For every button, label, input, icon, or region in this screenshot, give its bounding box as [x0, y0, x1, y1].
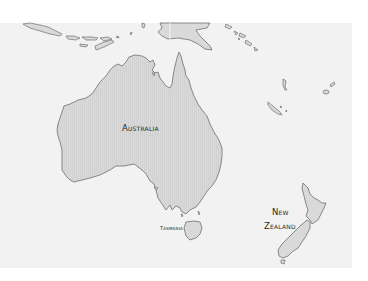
new-zealand-north-island: [302, 183, 326, 224]
stewart-island: [281, 260, 285, 264]
map-canvas: [0, 0, 368, 281]
label-new-zealand-line1: New: [272, 208, 289, 217]
australia-mainland: [57, 52, 222, 214]
label-australia: Australia: [122, 124, 159, 133]
solomon-islands: [225, 24, 258, 51]
label-tasmania: Tasmania: [160, 226, 183, 231]
indonesia-islands: [23, 23, 145, 50]
label-new-zealand-line2: Zealand: [264, 222, 296, 231]
tasmania: [184, 221, 202, 240]
pacific-islands: [268, 79, 335, 115]
new-guinea: [158, 23, 212, 50]
